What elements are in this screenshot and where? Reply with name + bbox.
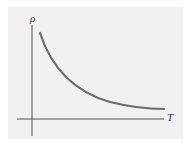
chart-plot [0, 0, 189, 142]
density-curve [40, 33, 164, 109]
y-axis-label: ρ [30, 12, 35, 24]
x-axis-label: T [167, 111, 173, 123]
